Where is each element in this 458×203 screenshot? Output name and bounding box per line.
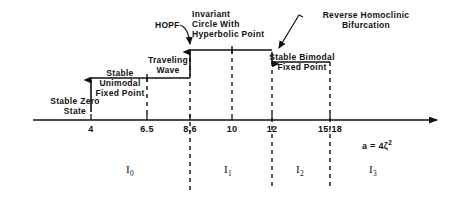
state-label-line: Stable Bimodal — [269, 52, 335, 62]
callout-label-line: Reverse Homoclinic — [323, 10, 410, 20]
interval-label-sub: 1 — [228, 169, 232, 178]
state-label-line: Circle With — [192, 19, 264, 29]
axis-tick-label-12: 12 — [267, 124, 278, 135]
state-label-line: Hyperbolic Point — [192, 29, 264, 39]
interval-label-i0: I0 — [126, 163, 134, 179]
callout-label-line: Bifurcation — [323, 20, 410, 30]
axis-formula-base: a = 4ζ — [362, 141, 388, 151]
state-label-line: Stable — [95, 68, 144, 78]
interval-label-sub: 2 — [300, 169, 304, 178]
hopf-leader-line — [180, 25, 190, 44]
axis-formula: a = 4ζ2 — [362, 139, 392, 152]
state-label-stable-bimodal-fixed-point: Stable Bimodal Fixed Point — [269, 52, 335, 72]
state-label-line: Fixed Point — [95, 88, 144, 98]
state-label-line: Wave — [148, 65, 188, 75]
axis-formula-exponent: 2 — [388, 139, 392, 146]
axis-tick-label-8-6: 8.6 — [183, 124, 196, 135]
axis-ticks — [91, 114, 330, 120]
interval-label-i2: I2 — [296, 163, 304, 179]
callout-label-reverse-homoclinic-bifurcation: Reverse Homoclinic Bifurcation — [323, 10, 410, 30]
state-label-line: Fixed Point — [269, 62, 335, 72]
state-label-stable-zero-state: Stable Zero State — [50, 96, 100, 116]
interval-label-i1: I1 — [224, 163, 232, 179]
state-label-line: Unimodal — [95, 78, 144, 88]
hopf-leader-path — [180, 25, 190, 44]
interval-label-sub: 3 — [373, 169, 377, 178]
interval-label-sub: 0 — [130, 169, 134, 178]
axis-tick-label-15-18: 15.18 — [318, 124, 342, 135]
state-label-line: Invariant — [192, 9, 264, 19]
state-label-traveling-wave: Traveling Wave — [148, 55, 188, 75]
interval-label-i3: I3 — [369, 163, 377, 179]
state-label-stable-unimodal-fixed-point: Stable Unimodal Fixed Point — [95, 68, 144, 98]
callout-label-hopf: HOPF — [155, 20, 180, 30]
state-label-line: Stable Zero — [50, 96, 100, 106]
axis-tick-label-4: 4 — [88, 124, 93, 135]
reverse-homoclinic-leader-line — [279, 15, 303, 48]
bifurcation-diagram: Stable Zero State Stable Unimodal Fixed … — [0, 0, 458, 203]
axis-tick-label-10: 10 — [227, 124, 238, 135]
axis-tick-label-6-5: 6.5 — [140, 124, 153, 135]
state-label-line: State — [50, 106, 100, 116]
state-label-line: Traveling — [148, 55, 188, 65]
state-label-invariant-circle-with-hyperbolic-point: Invariant Circle With Hyperbolic Point — [192, 9, 264, 39]
reverse-homoclinic-leader-path — [279, 15, 303, 48]
